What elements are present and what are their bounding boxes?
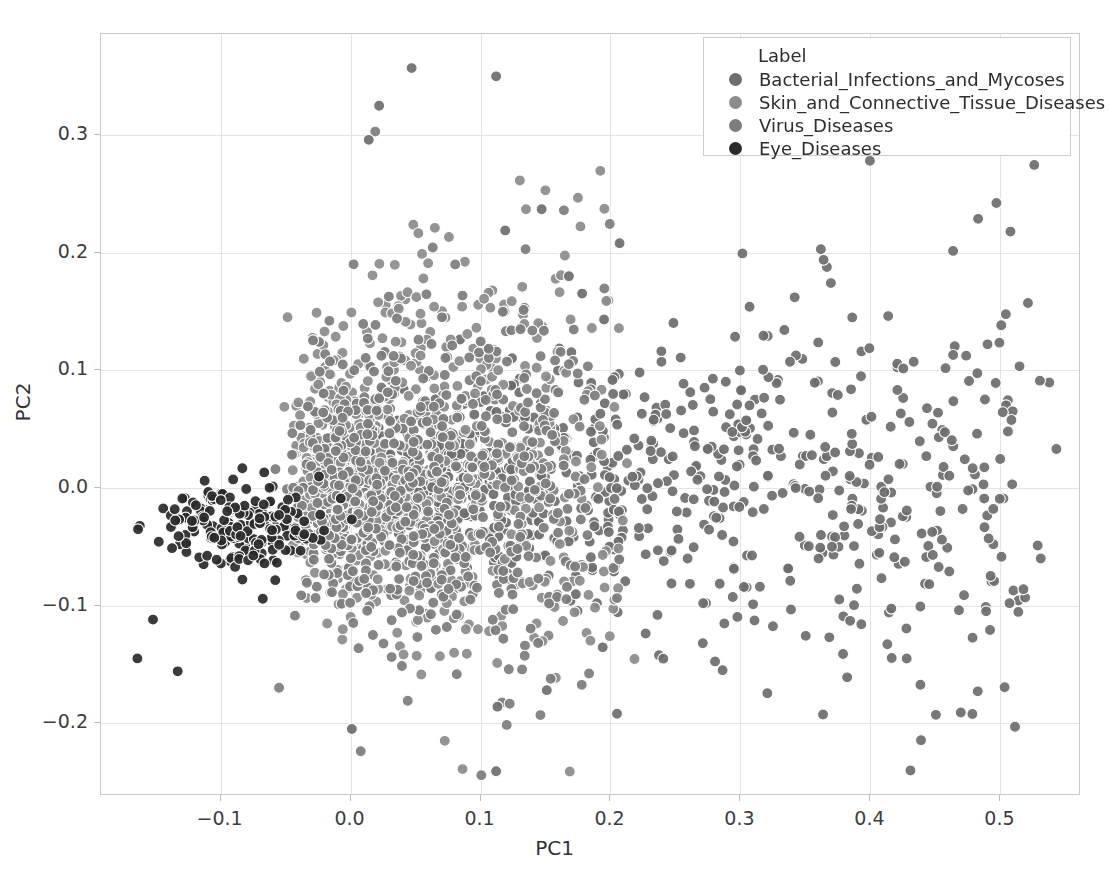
legend-entry: Bacterial_Infections_and_Mycoses — [716, 68, 1060, 91]
y-tick-mark — [94, 487, 100, 488]
legend-entry: Virus_Diseases — [716, 114, 1060, 137]
legend-label: Skin_and_Connective_Tissue_Diseases — [759, 91, 1105, 114]
x-tick-mark — [739, 795, 740, 801]
y-tick-label: 0.0 — [8, 475, 88, 497]
legend-label: Eye_Diseases — [759, 137, 881, 160]
x-tick-mark — [480, 795, 481, 801]
x-tick-label: −0.1 — [175, 807, 265, 829]
x-tick-mark — [609, 795, 610, 801]
legend-entry: Eye_Diseases — [716, 137, 1060, 160]
y-tick-mark — [94, 605, 100, 606]
legend-label: Virus_Diseases — [759, 114, 893, 137]
y-tick-label: −0.1 — [8, 593, 88, 615]
scatter-plot-figure: −0.2−0.10.00.10.20.3 −0.10.00.10.20.30.4… — [0, 0, 1109, 876]
legend-marker-icon — [729, 96, 742, 109]
x-tick-label: 0.0 — [305, 807, 395, 829]
legend-marker-icon — [729, 119, 742, 132]
legend: Label Bacterial_Infections_and_MycosesSk… — [703, 37, 1071, 156]
legend-marker-icon — [729, 73, 742, 86]
legend-title: Label — [758, 45, 1060, 66]
y-tick-label: 0.3 — [8, 122, 88, 144]
x-tick-mark — [869, 795, 870, 801]
legend-marker-icon — [729, 142, 742, 155]
x-tick-label: 0.4 — [824, 807, 914, 829]
y-tick-label: 0.2 — [8, 240, 88, 262]
y-tick-mark — [94, 369, 100, 370]
x-tick-mark — [220, 795, 221, 801]
x-tick-label: 0.2 — [564, 807, 654, 829]
x-tick-label: 0.5 — [954, 807, 1044, 829]
y-tick-mark — [94, 722, 100, 723]
y-tick-mark — [94, 252, 100, 253]
x-tick-mark — [350, 795, 351, 801]
y-tick-label: −0.2 — [8, 710, 88, 732]
x-tick-mark — [999, 795, 1000, 801]
y-axis-label: PC2 — [11, 362, 35, 442]
legend-entries: Bacterial_Infections_and_MycosesSkin_and… — [716, 68, 1060, 160]
x-tick-label: 0.3 — [694, 807, 784, 829]
legend-entry: Skin_and_Connective_Tissue_Diseases — [716, 91, 1060, 114]
legend-label: Bacterial_Infections_and_Mycoses — [759, 68, 1065, 91]
x-axis-label: PC1 — [0, 836, 1109, 860]
y-tick-mark — [94, 134, 100, 135]
x-tick-label: 0.1 — [435, 807, 525, 829]
